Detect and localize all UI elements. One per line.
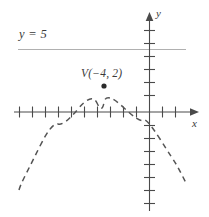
y-axis-arrowhead-icon <box>146 12 154 21</box>
y-axis-label: y <box>156 8 161 19</box>
math-figure: y = 5 V(−4, 2) y x <box>0 0 209 217</box>
x-axis-label: x <box>192 118 197 129</box>
line-equation-label: y = 5 <box>19 28 47 41</box>
vertex-point <box>101 83 106 88</box>
vertex-label: V(−4, 2) <box>81 68 122 80</box>
x-axis-arrowhead-icon <box>190 108 199 116</box>
